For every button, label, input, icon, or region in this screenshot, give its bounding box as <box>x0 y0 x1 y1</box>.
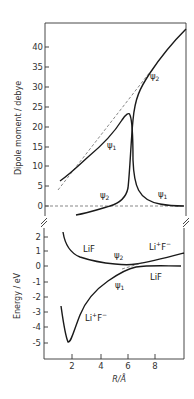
psi2-label-a: ψ2 <box>150 71 160 82</box>
axis-break-marks <box>41 218 189 227</box>
energy-axis-label: Energy / eV <box>13 272 22 319</box>
tick-5: 5 <box>38 181 43 191</box>
ionic-label-lower: Li+F− <box>85 311 107 323</box>
tick-x-4: 4 <box>98 361 103 371</box>
lower-y-tick-labels: 2 1 0 -1 -2 -3 -4 -5 <box>33 232 41 348</box>
tick-40: 40 <box>32 42 43 52</box>
tick-e-m3: -3 <box>33 307 41 317</box>
lif-label-lower: LiF <box>150 272 162 282</box>
psi1-label-b: ψ1 <box>158 189 168 200</box>
ionic-label-upper: Li+F− <box>149 240 171 252</box>
lif-label-upper: LiF <box>83 244 95 254</box>
tick-e-1: 1 <box>36 246 41 256</box>
lower-panel: 2 1 0 -1 -2 -3 -4 -5 Energy / eV 2 4 6 8… <box>13 228 184 384</box>
tick-x-6: 6 <box>125 361 130 371</box>
tick-e-m2: -2 <box>33 292 41 302</box>
tick-e-2: 2 <box>36 232 41 242</box>
tick-25: 25 <box>32 102 43 112</box>
tick-30: 30 <box>32 82 43 92</box>
psi2-energy-label: ψ2 <box>114 250 124 261</box>
psi1-energy-curve <box>61 266 181 342</box>
tick-x-2: 2 <box>69 361 74 371</box>
upper-panel: 40 35 30 25 20 15 10 5 0 Dipole moment /… <box>14 23 186 216</box>
tick-35: 35 <box>32 62 43 72</box>
psi1-label-a: ψ1 <box>107 140 117 151</box>
x-axis-label: R/Å <box>112 373 126 384</box>
upper-y-ticks <box>45 47 49 206</box>
psi1-energy-label: ψ1 <box>115 280 125 291</box>
x-tick-labels: 2 4 6 8 <box>69 361 157 371</box>
tick-0: 0 <box>38 201 43 211</box>
x-ticks <box>72 354 155 359</box>
psi2-label-b: ψ2 <box>100 190 110 201</box>
dipole-axis-label: Dipole moment / debye <box>14 81 23 175</box>
tick-10: 10 <box>32 161 43 171</box>
tick-20: 20 <box>32 122 43 132</box>
tick-e-m4: -4 <box>33 322 41 332</box>
lif-dipole-energy-figure: 40 35 30 25 20 15 10 5 0 Dipole moment /… <box>0 0 194 399</box>
tick-e-0: 0 <box>36 261 41 271</box>
tick-x-8: 8 <box>152 361 157 371</box>
lower-y-ticks <box>44 237 48 343</box>
tick-e-m1: -1 <box>33 277 41 287</box>
tick-e-m5: -5 <box>33 338 41 348</box>
tick-15: 15 <box>32 142 43 152</box>
upper-y-tick-labels: 40 35 30 25 20 15 10 5 0 <box>32 42 43 211</box>
